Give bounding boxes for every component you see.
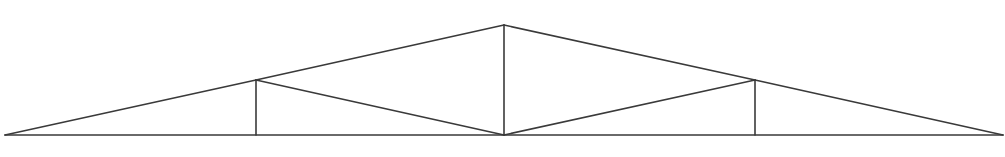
right-diagonal bbox=[504, 80, 755, 135]
left-diagonal bbox=[256, 80, 504, 135]
top-chord-right-2 bbox=[755, 80, 1003, 135]
truss-diagram bbox=[0, 0, 1005, 157]
top-chord-left-2 bbox=[256, 25, 504, 80]
truss-members bbox=[5, 25, 1003, 135]
top-chord-right-1 bbox=[504, 25, 755, 80]
top-chord-left-1 bbox=[5, 80, 256, 135]
